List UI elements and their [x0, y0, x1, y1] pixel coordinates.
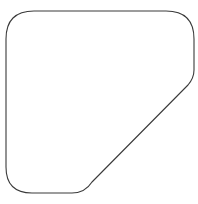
cropped-caption-text — [0, 197, 198, 204]
shape-diagram — [0, 0, 198, 204]
figure-canvas — [0, 0, 198, 204]
